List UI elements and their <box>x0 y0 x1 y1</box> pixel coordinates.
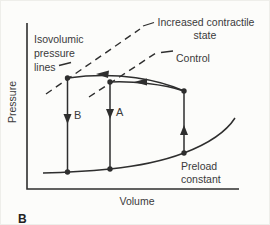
arrow-down-a-icon <box>106 109 114 119</box>
point-b-bottom <box>65 169 70 174</box>
arrow-left-long-icon <box>96 71 109 79</box>
control-label: Control <box>176 52 210 64</box>
control-leader-dash <box>161 51 173 53</box>
preload-label-line2: constant <box>181 173 221 185</box>
arrow-left-short-icon <box>134 79 147 86</box>
point-right-bottom <box>181 150 186 155</box>
pressure-volume-diagram: Isovolumic pressure lines Increased cont… <box>0 0 270 225</box>
arrow-a-label: A <box>116 106 124 118</box>
point-a-bottom <box>107 166 112 171</box>
arrow-up-icon <box>180 125 188 135</box>
isovolumic-label-line2: pressure <box>34 47 75 59</box>
y-axis-label: Pressure <box>6 81 18 123</box>
increased-label-line2: state <box>194 29 217 41</box>
increased-leader-dash <box>143 23 154 27</box>
x-axis-label: Volume <box>119 195 154 207</box>
point-b-top <box>65 75 70 80</box>
point-right-top <box>181 88 186 93</box>
arrow-b-label: B <box>74 109 81 121</box>
trajectory-to-increased <box>68 76 184 91</box>
diagram-svg: Isovolumic pressure lines Increased cont… <box>1 1 270 225</box>
increased-label-line1: Increased contractile <box>158 16 255 28</box>
panel-label: B <box>18 212 27 225</box>
point-a-top <box>107 79 112 84</box>
isovolumic-leader-dash <box>59 63 71 66</box>
isovolumic-label-line1: Isovolumic <box>34 33 84 45</box>
arrow-down-b-icon <box>64 114 72 124</box>
isovolumic-label-line3: lines <box>34 61 56 73</box>
preload-label-line1: Preload <box>181 160 217 172</box>
